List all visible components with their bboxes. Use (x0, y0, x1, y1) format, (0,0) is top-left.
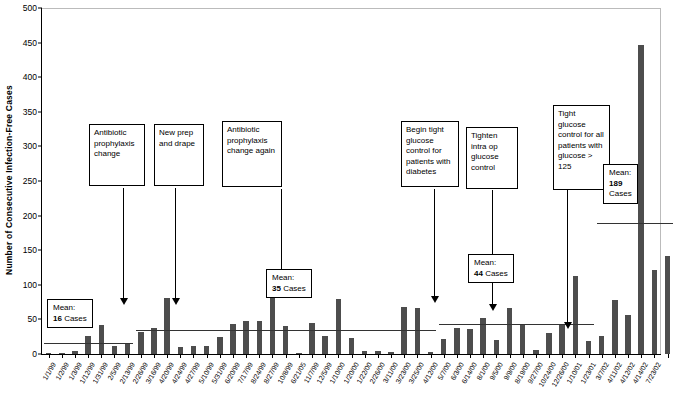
bar (520, 324, 526, 354)
mean-line (44, 343, 133, 344)
x-axis-tick-mark (378, 354, 379, 358)
bar (151, 328, 157, 354)
x-axis-tick-mark (167, 354, 168, 358)
x-axis-tick-mark (641, 354, 642, 358)
x-axis-tick-mark (391, 354, 392, 358)
mean-label-4: Mean: (609, 168, 632, 179)
x-axis-tick-mark (233, 354, 234, 358)
bar (467, 329, 473, 354)
mean-unit-2: Cases (283, 284, 306, 293)
bar (625, 315, 631, 354)
annotation-arrow-1 (123, 188, 124, 298)
x-axis-tick-mark (628, 354, 629, 358)
x-axis-tick-mark (193, 354, 194, 358)
x-axis-tick-mark (299, 354, 300, 358)
mean-box-1: Mean: 16 Cases (47, 299, 93, 328)
bar (665, 256, 671, 354)
bar (270, 295, 276, 354)
mean-box-4: Mean: 189 Cases (603, 164, 638, 204)
mean-unit-1: Cases (64, 314, 87, 323)
x-axis-tick-mark (444, 354, 445, 358)
y-axis-tick-mark (38, 250, 42, 251)
bar (178, 347, 184, 354)
x-axis-tick-mark (496, 354, 497, 358)
bar (85, 336, 91, 354)
bar (336, 299, 342, 354)
x-axis-labels: 1/1/991/2/991/3/991/12/991/31/992/5/992/… (0, 361, 667, 398)
y-axis-tick-mark (38, 215, 42, 216)
mean-unit-4: Cases (609, 189, 632, 200)
annotation-box-tight-glucose-control-all-patients: Tight glucose control for all patients w… (553, 105, 610, 190)
annotation-box-begin-tight-glucose-control: Begin tight glucose control for patients… (401, 121, 459, 187)
x-axis-tick-mark (668, 354, 669, 358)
x-axis-tick-mark (575, 354, 576, 358)
x-axis-tick-mark (589, 354, 590, 358)
x-axis-tick-mark (88, 354, 89, 358)
x-axis-tick-mark (312, 354, 313, 358)
bar (573, 276, 579, 354)
annotation-arrow-5 (492, 190, 493, 304)
bar (441, 339, 447, 354)
mean-value-4: 189 (609, 179, 622, 188)
y-axis-tick-mark (38, 146, 42, 147)
mean-unit-3: Cases (485, 269, 508, 278)
mean-box-2: Mean: 35 Cases (266, 269, 312, 298)
x-axis-tick-mark (286, 354, 287, 358)
y-axis-tick-mark (38, 284, 42, 285)
mean-value-1: 16 (53, 314, 62, 323)
bar (204, 346, 210, 354)
bar (349, 338, 355, 354)
y-axis-tick-mark (38, 354, 42, 355)
bar (138, 332, 144, 354)
x-axis-tick-mark (180, 354, 181, 358)
x-axis-tick-mark (272, 354, 273, 358)
bar (99, 325, 105, 354)
x-axis-tick-mark (246, 354, 247, 358)
y-axis-tick-mark (38, 181, 42, 182)
bar (546, 333, 552, 354)
x-axis-tick-mark (536, 354, 537, 358)
x-axis-tick-mark (431, 354, 432, 358)
y-axis-tick-mark (38, 8, 42, 9)
x-axis-tick-mark (220, 354, 221, 358)
mean-value-2: 35 (272, 284, 281, 293)
x-axis-tick-mark (602, 354, 603, 358)
bar (191, 346, 197, 354)
x-axis-tick-mark (141, 354, 142, 358)
annotation-arrow-6 (567, 190, 568, 322)
annotation-box-antibiotic-prophylaxis-change-again: Antibiotic prophylaxis change again (222, 121, 282, 187)
y-axis-tick-mark (38, 77, 42, 78)
x-axis-tick-mark (352, 354, 353, 358)
annotation-box-tighten-intra-op-glucose-control: Tighten intra op glucose control (466, 127, 518, 189)
x-axis-tick-mark (338, 354, 339, 358)
y-axis-tick-mark (38, 111, 42, 112)
bar (415, 308, 421, 354)
x-axis-tick-mark (510, 354, 511, 358)
mean-label-1: Mean: (53, 303, 87, 314)
bar (243, 321, 249, 354)
bar (309, 323, 315, 354)
bar (612, 300, 618, 354)
x-axis-tick-mark (562, 354, 563, 358)
x-axis-tick-mark (615, 354, 616, 358)
x-axis-tick-mark (654, 354, 655, 358)
x-axis-tick-mark (417, 354, 418, 358)
y-axis-title: Number of Consecutive Infection-Free Cas… (2, 0, 16, 360)
x-axis-tick-mark (523, 354, 524, 358)
bar (507, 308, 513, 354)
mean-line (597, 223, 673, 224)
x-axis-tick-mark (549, 354, 550, 358)
bar (164, 298, 170, 354)
bar (125, 344, 131, 354)
bar (217, 337, 223, 354)
bar (454, 328, 460, 354)
bar (586, 341, 592, 354)
x-axis-tick-mark (49, 354, 50, 358)
bar (494, 340, 500, 354)
x-axis-tick-mark (154, 354, 155, 358)
mean-label-3: Mean: (474, 258, 508, 269)
y-axis-tick-mark (38, 319, 42, 320)
x-axis-tick-mark (365, 354, 366, 358)
bar (652, 270, 658, 354)
annotation-arrow-4 (434, 189, 435, 296)
